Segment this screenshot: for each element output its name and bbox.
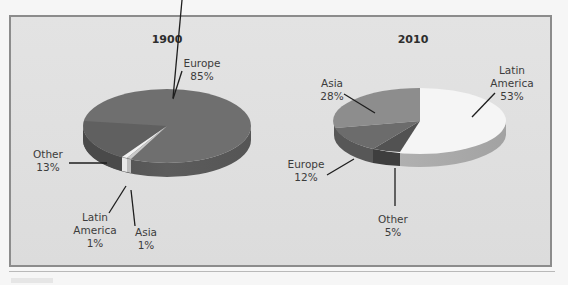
leader-latin-1900: [109, 186, 126, 213]
label-asia-1900-name: Asia: [135, 226, 157, 238]
pie-2010: 2010 Asia 28% Latin America 53% Europe 1…: [288, 33, 534, 238]
label-europe-2010-pct: 12%: [294, 171, 317, 183]
pie-1900: 1900 Europe 85% Other 13% Latin America …: [33, 0, 251, 251]
pie-1900-side-latin: [122, 157, 127, 172]
label-other-2010-pct: 5%: [385, 226, 402, 238]
pie-2010-slice-asia: [333, 88, 420, 128]
leader-asia-1900: [131, 190, 135, 226]
label-other-1900-pct: 13%: [36, 161, 59, 173]
label-other-2010-name: Other: [378, 213, 408, 225]
label-asia-2010-pct: 28%: [320, 90, 343, 102]
pie-1900-side-asia: [127, 158, 131, 173]
label-europe-1900-name: Europe: [184, 57, 221, 69]
label-other-1900-name: Other: [33, 148, 63, 160]
pie-charts: 1900 Europe 85% Other 13% Latin America …: [0, 0, 568, 285]
label-latin-2010-pct: 53%: [500, 90, 523, 102]
label-europe-1900-pct: 85%: [190, 70, 213, 82]
label-latin-2010-name1: Latin: [499, 64, 525, 76]
pie-2010-title: 2010: [398, 33, 429, 46]
label-latin-1900-name2: America: [73, 224, 116, 236]
leader-europe-2010: [327, 159, 354, 175]
label-latin-2010-name2: America: [490, 77, 533, 89]
label-europe-2010-name: Europe: [288, 158, 325, 170]
label-latin-1900-pct: 1%: [87, 237, 104, 249]
label-asia-2010-name: Asia: [321, 77, 343, 89]
label-latin-1900-name1: Latin: [82, 211, 108, 223]
label-asia-1900-pct: 1%: [138, 239, 155, 251]
